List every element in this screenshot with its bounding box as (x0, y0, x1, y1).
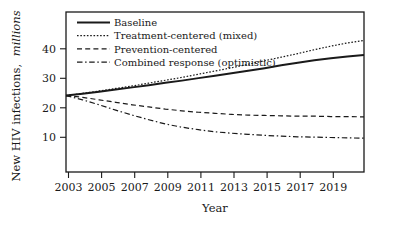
x-tick-label-2009: 2009 (154, 181, 182, 194)
x-tick-label-2013: 2013 (220, 181, 248, 194)
y-axis-title-plain: New HIV infections, (9, 64, 23, 182)
y-tick-label-20: 20 (42, 102, 56, 115)
legend-label-1: Baseline (114, 17, 157, 28)
legend-label-3: Prevention-centered (114, 44, 218, 55)
figure-container: 40 30 20 10 2003 2005 2007 2009 2011 201… (0, 0, 394, 226)
x-tick-label-2017: 2017 (286, 181, 314, 194)
x-tick-label-2019: 2019 (319, 181, 347, 194)
y-tick-label-10: 10 (42, 131, 56, 144)
series-group (66, 40, 364, 138)
y-axis-title-italic: millions (9, 10, 23, 56)
x-axis-title: Year (201, 201, 228, 215)
x-tick-label-2015: 2015 (253, 181, 281, 194)
y-axis-title: New HIV infections, millions (9, 10, 23, 181)
x-axis-tick-labels: 2003 2005 2007 2009 2011 2013 2015 2017 … (55, 181, 348, 194)
hiv-infections-line-chart: 40 30 20 10 2003 2005 2007 2009 2011 201… (0, 0, 394, 226)
x-tick-label-2003: 2003 (55, 181, 83, 194)
svg-text:New HIV infections, mi: New HIV infections, millions (9, 10, 23, 181)
x-tick-label-2011: 2011 (187, 181, 215, 194)
y-axis-ticks (60, 49, 66, 138)
chart-legend: BaselineTreatment-centered (mixed)Preven… (77, 17, 276, 68)
y-tick-label-30: 30 (42, 72, 56, 85)
y-axis-tick-labels: 40 30 20 10 (42, 43, 56, 145)
x-tick-label-2005: 2005 (88, 181, 116, 194)
legend-label-2: Treatment-centered (mixed) (114, 30, 257, 41)
x-tick-label-2007: 2007 (121, 181, 149, 194)
series-line-prevention-centered (66, 96, 364, 117)
y-tick-label-40: 40 (42, 43, 56, 56)
x-axis-ticks (69, 172, 334, 178)
legend-label-4: Combined response (optimistic) (114, 57, 276, 68)
